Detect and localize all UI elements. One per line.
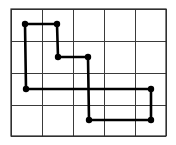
vertex-dot bbox=[54, 21, 60, 27]
vertex-dot bbox=[148, 86, 154, 92]
vertex-dot bbox=[23, 86, 29, 92]
vertex-dot bbox=[86, 117, 92, 123]
vertex-dot bbox=[55, 54, 61, 60]
vertex-dot bbox=[85, 54, 91, 60]
vertex-dot bbox=[22, 21, 28, 27]
grid-diagram bbox=[0, 0, 176, 145]
vertex-dot bbox=[148, 117, 154, 123]
polygon-path bbox=[25, 24, 151, 120]
